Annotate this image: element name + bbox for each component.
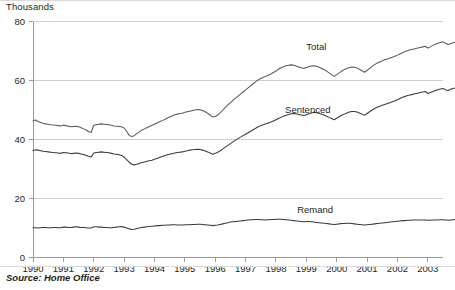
y-tick-label-80: 80 [3,16,25,27]
x-tick-marks-group [33,258,428,262]
x-tick-label-1998: 1998 [259,263,293,274]
chart-plot-area [0,0,455,290]
x-tick-label-1997: 1997 [229,263,263,274]
y-tick-label-40: 40 [3,134,25,145]
x-tick-label-2002: 2002 [380,263,414,274]
x-tick-label-2000: 2000 [320,263,354,274]
chart-container: Thousands 020406080 19901991199219931994… [0,0,455,290]
x-tick-label-1994: 1994 [137,263,171,274]
x-tick-label-2003: 2003 [411,263,445,274]
series-label-remand: Remand [297,204,333,215]
gridlines-group [33,22,443,199]
series-lines-group [33,42,455,230]
bottom-divider [0,266,455,267]
source-note: Source: Home Office [6,272,100,283]
series-label-sentenced: Sentenced [285,104,330,115]
y-tick-label-0: 0 [3,252,25,263]
x-tick-label-1999: 1999 [289,263,323,274]
y-tick-label-20: 20 [3,193,25,204]
series-label-total: Total [306,41,326,52]
x-tick-label-1995: 1995 [168,263,202,274]
y-tick-marks-group [29,22,33,258]
x-tick-label-2001: 2001 [350,263,384,274]
x-tick-label-1993: 1993 [107,263,141,274]
y-tick-label-60: 60 [3,75,25,86]
x-tick-label-1996: 1996 [198,263,232,274]
